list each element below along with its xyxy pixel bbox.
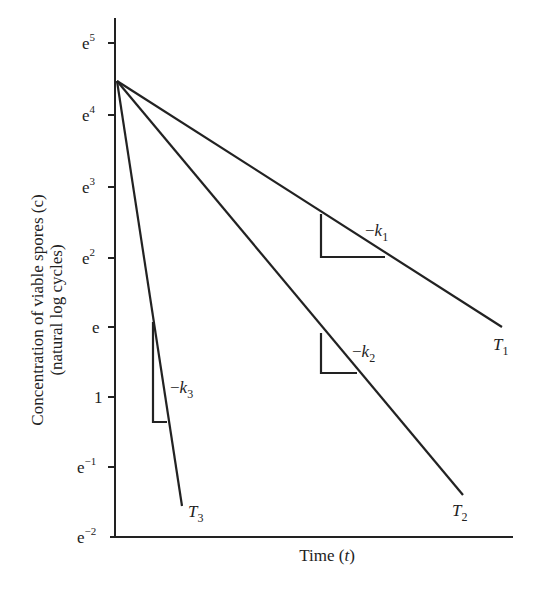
tick-e3: e3 (82, 175, 96, 197)
tick-e2: e2 (82, 246, 95, 268)
y-axis-label: Concentration of viable spores (c) (natu… (28, 194, 66, 425)
y-ticks (108, 43, 115, 467)
line-T3 (117, 81, 182, 506)
line-T2 (117, 81, 463, 495)
label-T2: T2 (452, 501, 467, 524)
label-k3: −k3 (170, 378, 193, 401)
tick-e1: e (92, 318, 100, 337)
label-T1: T1 (493, 335, 508, 358)
survival-lines (117, 81, 502, 506)
tick-em2: e−2 (77, 525, 96, 547)
label-k2: −k2 (352, 342, 375, 365)
label-T3: T3 (188, 502, 203, 525)
tick-em1: e−1 (77, 455, 96, 477)
line-T1 (117, 81, 502, 327)
survival-curve-diagram: e5 e4 e3 e2 e 1 e−1 e−2 Concentration of… (0, 0, 533, 591)
svg-text:Concentration of viable spores: Concentration of viable spores (c) (28, 194, 47, 425)
tick-e4: e4 (82, 103, 96, 125)
svg-text:(natural log cycles): (natural log cycles) (47, 244, 66, 375)
x-axis-label: Time (t) (299, 546, 355, 565)
tick-e5: e5 (82, 31, 96, 53)
tick-one: 1 (94, 388, 103, 407)
